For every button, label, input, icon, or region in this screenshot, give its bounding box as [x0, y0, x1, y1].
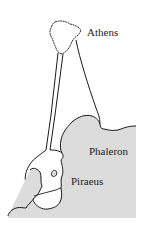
map-drawing [0, 0, 144, 230]
label-piraeus: Piraeus [71, 175, 103, 187]
harbour-zea [51, 170, 56, 176]
athens-outline [50, 21, 81, 54]
label-phaleron: Phaleron [89, 145, 128, 157]
label-athens: Athens [87, 26, 118, 38]
map: Athens Phaleron Piraeus [0, 0, 144, 230]
phaleric-wall [76, 40, 100, 124]
